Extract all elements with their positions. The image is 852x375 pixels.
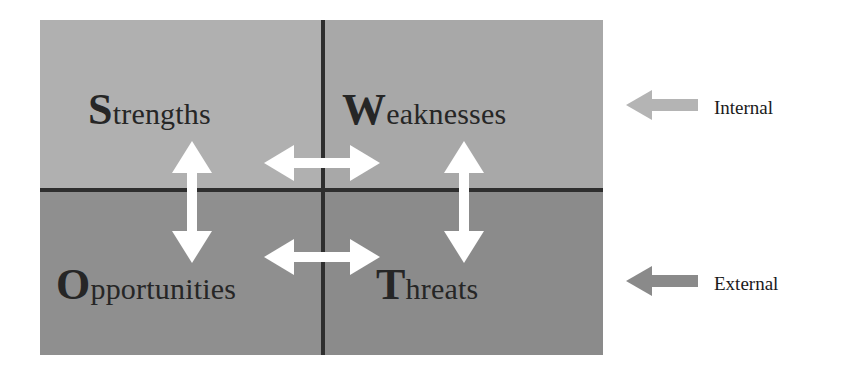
double-arrow-vertical-weaknesses-threats-icon [442, 139, 486, 269]
label-threats: Threats [376, 263, 478, 307]
arrow-left-internal-icon [624, 88, 700, 126]
label-opportunities-rest: pportunities [90, 272, 236, 305]
label-opportunities: Opportunities [56, 263, 236, 307]
axis-external-label: External [714, 274, 778, 293]
swot-matrix: Strengths Weaknesses Opportunities Threa… [40, 20, 603, 355]
label-weaknesses-rest: eaknesses [386, 97, 506, 130]
double-arrow-horizontal-strengths-weaknesses-icon [262, 142, 382, 188]
axis-external: External [624, 264, 778, 302]
divider-horizontal [40, 188, 603, 192]
label-weaknesses: Weaknesses [342, 88, 506, 132]
axis-internal: Internal [624, 88, 773, 126]
label-strengths-rest: trengths [113, 97, 211, 130]
arrow-left-external-icon [624, 264, 700, 302]
double-arrow-vertical-strengths-opportunities-icon [170, 139, 214, 269]
dropcap-opportunities: O [56, 260, 90, 309]
dropcap-strengths: S [88, 85, 113, 134]
label-strengths: Strengths [88, 88, 211, 132]
label-threats-rest: hreats [406, 272, 479, 305]
dropcap-weaknesses: W [342, 85, 386, 134]
axis-internal-label: Internal [714, 98, 773, 117]
double-arrow-horizontal-opportunities-threats-icon [262, 236, 382, 282]
